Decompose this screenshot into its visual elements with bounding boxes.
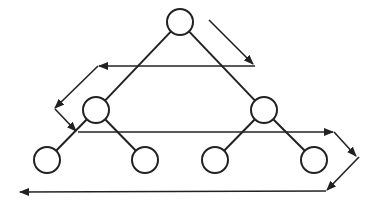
tree-node-leaf-1	[34, 147, 60, 173]
tree-node-leaf-4	[301, 147, 327, 173]
traversal-arrow	[55, 109, 76, 131]
tree-node-root	[167, 9, 193, 35]
tree-node-leaf-2	[132, 147, 158, 173]
tree-node-leaf-3	[202, 147, 228, 173]
traversal-arrow	[334, 132, 356, 156]
tree-node-level1-left	[83, 97, 109, 123]
tree-edge	[273, 119, 305, 151]
tree-node-level1-right	[251, 97, 277, 123]
tree-edge	[105, 119, 136, 150]
traversal-arrow	[20, 191, 326, 192]
tree-nodes	[34, 9, 327, 173]
tree-edges	[56, 31, 305, 150]
tree-edge	[224, 119, 255, 150]
tree-edge	[56, 119, 87, 150]
tree-traversal-diagram	[0, 0, 375, 211]
traversal-arrow	[327, 157, 359, 190]
traversal-arrow	[209, 20, 253, 64]
